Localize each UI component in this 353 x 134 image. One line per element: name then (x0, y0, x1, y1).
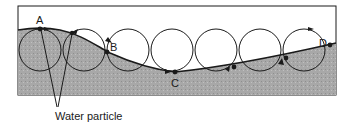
label-a: A (36, 14, 44, 26)
wave-diagram: A B C D Water particle (0, 0, 353, 134)
label-d: D (319, 37, 327, 49)
label-b: B (110, 41, 117, 53)
label-c: C (171, 77, 179, 89)
caption: Water particle (55, 110, 122, 122)
particle-b (105, 50, 110, 55)
particle-mid (232, 65, 237, 70)
particle-a (38, 27, 43, 32)
particle-mid2 (284, 56, 289, 61)
particle-c (173, 70, 178, 75)
particle-d (328, 43, 333, 48)
